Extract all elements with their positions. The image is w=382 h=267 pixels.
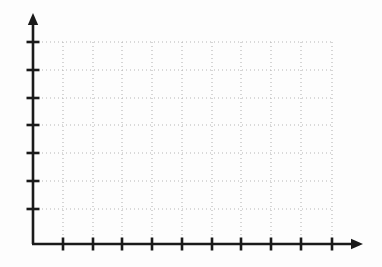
coordinate-grid-plot <box>0 0 382 267</box>
graph-figure: Blank Coordinate Grid <box>0 0 382 267</box>
plot-background <box>0 0 382 267</box>
